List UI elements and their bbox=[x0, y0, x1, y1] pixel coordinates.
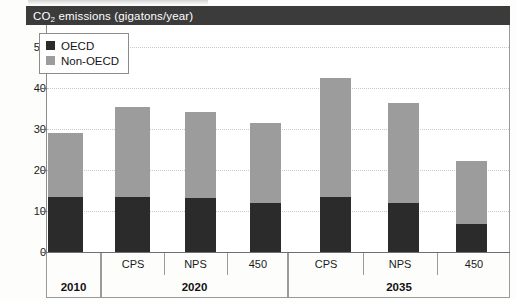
bar-segment-non-oecd bbox=[48, 133, 83, 197]
bar-2035-cps bbox=[320, 78, 351, 252]
bar-2010 bbox=[48, 133, 83, 252]
legend-label-non-oecd: Non-OECD bbox=[61, 55, 119, 67]
x-axis-scenario-label: 450 bbox=[249, 258, 267, 270]
x-axis-group-label: 2035 bbox=[289, 281, 509, 293]
x-axis-scenario-cell: 450 bbox=[227, 253, 289, 275]
bar-2035-450 bbox=[456, 161, 487, 252]
bar-segment-non-oecd bbox=[320, 78, 351, 197]
y-axis-tick-mark bbox=[41, 170, 47, 171]
bar-2020-nps bbox=[185, 112, 216, 252]
x-axis-scenario-cell: 450 bbox=[437, 253, 511, 275]
bar-segment-non-oecd bbox=[388, 103, 419, 203]
y-axis-tick-mark bbox=[41, 88, 47, 89]
legend-swatch-oecd-icon bbox=[46, 41, 55, 50]
x-axis-scenario-label: NPS bbox=[389, 258, 412, 270]
legend-item-oecd: OECD bbox=[46, 38, 122, 53]
bar-segment-non-oecd bbox=[456, 161, 487, 225]
bar-2020-450 bbox=[250, 123, 281, 252]
x-axis-group-label: 2010 bbox=[47, 281, 100, 293]
x-axis-group-2035: CPSNPS4502035 bbox=[288, 253, 510, 298]
bar-segment-oecd bbox=[250, 203, 281, 252]
x-axis-scenario-cell: CPS bbox=[289, 253, 363, 275]
bar-segment-non-oecd bbox=[185, 112, 216, 198]
x-axis-cell-separator bbox=[437, 253, 438, 275]
bar-segment-oecd bbox=[388, 203, 419, 252]
y-axis-tick-mark bbox=[41, 211, 47, 212]
x-axis-group-label: 2020 bbox=[102, 281, 287, 293]
y-axis-tick-mark bbox=[41, 129, 47, 130]
bar-2035-nps bbox=[388, 103, 419, 252]
y-axis-tick-mark bbox=[41, 252, 47, 253]
x-axis-label-bands: 2010CPSNPS4502020CPSNPS4502035 bbox=[46, 253, 510, 298]
x-axis-cell-separator bbox=[164, 253, 165, 275]
chart-figure: CO2 emissions (gigatons/year) 0102030405… bbox=[0, 0, 517, 299]
bar-2020-cps bbox=[115, 107, 150, 252]
bar-segment-oecd bbox=[48, 197, 83, 252]
chart-legend: OECD Non-OECD bbox=[39, 33, 129, 74]
x-axis-scenario-label: 450 bbox=[465, 258, 483, 270]
x-axis-scenario-cell: NPS bbox=[164, 253, 226, 275]
x-axis-scenario-label: CPS bbox=[315, 258, 338, 270]
x-axis-scenario-cell: NPS bbox=[363, 253, 437, 275]
bar-segment-oecd bbox=[320, 197, 351, 252]
x-axis-cell-separator bbox=[227, 253, 228, 275]
x-axis-scenario-label: CPS bbox=[122, 258, 145, 270]
x-axis-scenario-label: NPS bbox=[184, 258, 207, 270]
bar-segment-non-oecd bbox=[115, 107, 150, 197]
x-axis-group-2020: CPSNPS4502020 bbox=[101, 253, 288, 298]
legend-swatch-non-oecd-icon bbox=[46, 56, 55, 65]
x-axis-scenario-cell: CPS bbox=[102, 253, 164, 275]
x-axis-group-2010: 2010 bbox=[46, 253, 101, 298]
x-axis-scenario-cell bbox=[47, 253, 102, 275]
legend-label-oecd: OECD bbox=[61, 40, 94, 52]
bar-segment-oecd bbox=[456, 224, 487, 252]
bar-segment-oecd bbox=[185, 198, 216, 252]
x-axis-cell-separator bbox=[363, 253, 364, 275]
bar-segment-oecd bbox=[115, 197, 150, 252]
legend-item-non-oecd: Non-OECD bbox=[46, 53, 122, 68]
bar-segment-non-oecd bbox=[250, 123, 281, 203]
